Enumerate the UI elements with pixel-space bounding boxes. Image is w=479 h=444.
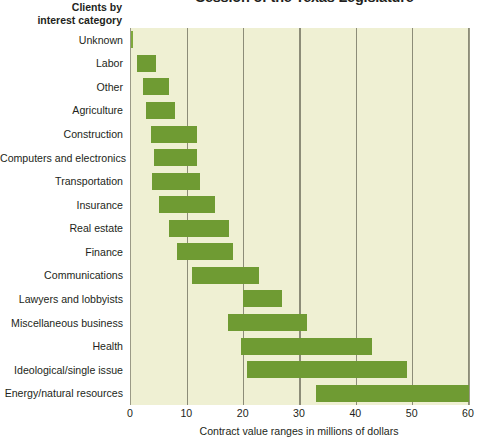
- bar-health: [241, 338, 372, 355]
- x-tick-label-20: 20: [223, 407, 263, 419]
- y-tick-label-labor: Labor: [0, 57, 123, 69]
- y-tick-label-construction: Construction: [0, 128, 123, 140]
- y-tick-label-insurance: Insurance: [0, 199, 123, 211]
- bar-communications: [192, 267, 259, 284]
- bar-lawyers-and-lobbyists: [243, 290, 282, 307]
- x-tick-label-60: 60: [448, 407, 479, 419]
- y-tick-label-health: Health: [0, 340, 123, 352]
- y-tick-label-transportation: Transportation: [0, 175, 123, 187]
- x-tick-label-40: 40: [335, 407, 375, 419]
- bar-agriculture: [146, 102, 175, 119]
- y-tick-label-communications: Communications: [0, 269, 123, 281]
- y-tick-label-computers-and-electronics: Computers and electronics: [0, 152, 123, 164]
- y-tick-label-unknown: Unknown: [0, 34, 123, 46]
- x-axis-title: Contract value ranges in millions of dol…: [130, 425, 468, 437]
- bar-labor: [137, 55, 157, 72]
- bar-miscellaneous-business: [228, 314, 307, 331]
- x-tick-label-30: 30: [279, 407, 319, 419]
- x-tick-label-0: 0: [110, 407, 150, 419]
- bar-insurance: [159, 196, 215, 213]
- bar-other: [143, 78, 168, 95]
- bar-transportation: [152, 173, 200, 190]
- plot-right-border: [469, 28, 470, 405]
- bar-unknown: [131, 31, 133, 48]
- y-tick-label-real-estate: Real estate: [0, 222, 123, 234]
- bar-computers-and-electronics: [154, 149, 198, 166]
- x-tick-label-10: 10: [166, 407, 206, 419]
- bar-construction: [151, 126, 197, 143]
- gridline-10: [187, 28, 188, 405]
- bar-ideological-single-issue: [247, 361, 407, 378]
- y-tick-label-miscellaneous-business: Miscellaneous business: [0, 317, 123, 329]
- y-axis-heading: Clients by interest category: [0, 1, 122, 26]
- y-tick-label-ideological-single-issue: Ideological/single issue: [0, 364, 123, 376]
- y-tick-label-lawyers-and-lobbyists: Lawyers and lobbyists: [0, 293, 123, 305]
- y-tick-label-energy-natural-resources: Energy/natural resources: [0, 387, 123, 399]
- bar-real-estate: [169, 220, 229, 237]
- chart-container: Session of the Texas Legislature Clients…: [0, 0, 479, 444]
- y-axis-heading-line-1: Clients by: [0, 1, 122, 14]
- gridline-50: [412, 28, 413, 405]
- x-tick-label-50: 50: [392, 407, 432, 419]
- y-tick-label-agriculture: Agriculture: [0, 104, 123, 116]
- y-tick-label-other: Other: [0, 81, 123, 93]
- y-tick-label-finance: Finance: [0, 246, 123, 258]
- plot-area: [130, 28, 469, 405]
- bar-finance: [177, 243, 233, 260]
- bar-energy-natural-resources: [316, 385, 469, 402]
- chart-title: Session of the Texas Legislature: [130, 0, 479, 5]
- y-axis-heading-line-2: interest category: [0, 14, 122, 27]
